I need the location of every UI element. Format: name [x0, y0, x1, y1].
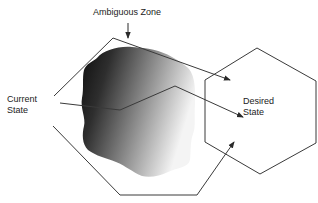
- ambiguous-zone-blob: [82, 47, 195, 177]
- current-state-label-line2: State: [7, 105, 37, 116]
- current-state-label: Current State: [7, 94, 37, 116]
- desired-state-label-line1: Desired: [243, 96, 274, 107]
- desired-state-label-line2: State: [243, 107, 274, 118]
- ambiguous-zone-label: Ambiguous Zone: [93, 7, 161, 18]
- desired-state-label: Desired State: [243, 96, 274, 118]
- current-state-label-line1: Current: [7, 94, 37, 105]
